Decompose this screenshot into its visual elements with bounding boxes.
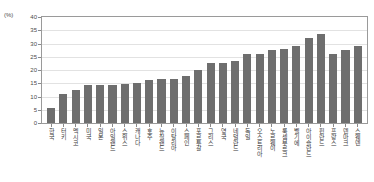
x-axis-label-slot: 한국 bbox=[45, 128, 57, 180]
bar-slot bbox=[57, 17, 69, 123]
bar-slot bbox=[217, 17, 229, 123]
x-axis-tick-mark bbox=[149, 124, 150, 127]
x-axis-category-label: 터키 bbox=[60, 128, 66, 140]
bar bbox=[96, 85, 104, 123]
x-axis-tick-mark bbox=[136, 124, 137, 127]
bar-slot bbox=[119, 17, 131, 123]
x-axis-tick-mark bbox=[51, 124, 52, 127]
x-axis-tick bbox=[278, 124, 290, 127]
bar-series bbox=[42, 17, 367, 123]
x-axis-category-label: 미국 bbox=[85, 128, 91, 140]
x-axis-tick-mark bbox=[345, 124, 346, 127]
x-axis-label-slot: 아이슬란드 bbox=[303, 128, 315, 180]
x-axis-label-slot: 포르투갈 bbox=[192, 128, 204, 180]
x-axis-label-slot: 캐나다 bbox=[131, 128, 143, 180]
bar bbox=[317, 34, 325, 123]
bar-slot bbox=[94, 17, 106, 123]
bar bbox=[59, 94, 67, 123]
x-axis-category-label: 뉴질랜드 bbox=[158, 128, 164, 151]
x-axis-tick bbox=[339, 124, 351, 127]
bar-slot bbox=[352, 17, 364, 123]
x-axis-label-slot: 미국 bbox=[82, 128, 94, 180]
x-axis-tick-mark bbox=[63, 124, 64, 127]
x-axis-category-label: 포르투갈 bbox=[195, 128, 201, 151]
y-axis-tick-label: 0 bbox=[34, 120, 37, 126]
bar bbox=[243, 54, 251, 123]
x-axis-tick bbox=[204, 124, 216, 127]
x-axis-label-slot: 핀란드 bbox=[315, 128, 327, 180]
y-axis-tick-label: 10 bbox=[30, 94, 37, 100]
x-axis-tick bbox=[57, 124, 69, 127]
bar bbox=[231, 61, 239, 123]
y-axis-tick-label: 20 bbox=[30, 67, 37, 73]
x-axis-tick bbox=[155, 124, 167, 127]
x-axis-category-label: 네덜란드 bbox=[232, 128, 238, 151]
x-axis-tick-mark bbox=[222, 124, 223, 127]
bar-slot bbox=[241, 17, 253, 123]
bar bbox=[194, 70, 202, 123]
x-axis-category-label: 룩셈부르크 bbox=[281, 128, 287, 157]
x-axis-tick-mark bbox=[173, 124, 174, 127]
bar-slot bbox=[204, 17, 216, 123]
x-axis-label-slot: 스웨덴 bbox=[352, 128, 364, 180]
x-axis-label-slot: 호주 bbox=[143, 128, 155, 180]
x-axis-category-label: 영국 bbox=[220, 128, 226, 140]
x-axis-tick-mark bbox=[259, 124, 260, 127]
x-axis-category-label: 덴마크 bbox=[342, 128, 348, 145]
x-axis-label-slot: 스페인 bbox=[180, 128, 192, 180]
bar-chart: (%) 0510152025303540 한국터키멕시코미국일본아일랜드스위스캐… bbox=[0, 0, 374, 182]
bar bbox=[121, 84, 129, 123]
x-axis-category-label: 오스트리아 bbox=[257, 128, 263, 157]
x-axis-category-label: 호주 bbox=[146, 128, 152, 140]
bar bbox=[268, 50, 276, 123]
x-axis-tick bbox=[315, 124, 327, 127]
bar bbox=[305, 38, 313, 123]
bar-slot bbox=[327, 17, 339, 123]
x-axis-tick-mark bbox=[333, 124, 334, 127]
y-axis-tick-label: 40 bbox=[30, 14, 37, 20]
x-axis-category-label: 그리스 bbox=[207, 128, 213, 145]
x-axis-tick-mark bbox=[198, 124, 199, 127]
x-axis-tick bbox=[180, 124, 192, 127]
bar-slot bbox=[278, 17, 290, 123]
x-axis-tick bbox=[327, 124, 339, 127]
bar-slot bbox=[168, 17, 180, 123]
x-axis-tick bbox=[131, 124, 143, 127]
x-axis-tick-mark bbox=[357, 124, 358, 127]
x-axis-category-label: 노르웨이 bbox=[269, 128, 275, 151]
x-axis-category-label: 벨기에 bbox=[293, 128, 299, 145]
x-axis-tick-mark bbox=[271, 124, 272, 127]
x-axis-tick-mark bbox=[124, 124, 125, 127]
x-axis-category-label: 프랑스 bbox=[330, 128, 336, 145]
x-axis-category-label: 독일 bbox=[244, 128, 250, 140]
x-axis-label-slot: 프랑스 bbox=[327, 128, 339, 180]
x-axis-tick-mark bbox=[320, 124, 321, 127]
bar bbox=[341, 50, 349, 123]
x-axis-tick-mark bbox=[247, 124, 248, 127]
x-axis-tick-mark bbox=[210, 124, 211, 127]
x-axis-label-slot: 멕시코 bbox=[70, 128, 82, 180]
x-axis-label-slot: 노르웨이 bbox=[266, 128, 278, 180]
bar-slot bbox=[70, 17, 82, 123]
bar bbox=[182, 76, 190, 123]
bar bbox=[133, 83, 141, 123]
bar bbox=[354, 46, 362, 123]
x-axis-label-slot: 아일랜드 bbox=[106, 128, 118, 180]
bar bbox=[256, 54, 264, 123]
x-axis-label-slot: 독일 bbox=[241, 128, 253, 180]
x-axis-tick bbox=[254, 124, 266, 127]
bar-slot bbox=[315, 17, 327, 123]
x-axis-tick-mark bbox=[284, 124, 285, 127]
bar bbox=[47, 108, 55, 123]
x-axis-label-slot: 일본 bbox=[94, 128, 106, 180]
x-axis-tick bbox=[192, 124, 204, 127]
x-axis-tick bbox=[119, 124, 131, 127]
y-axis-tick-label: 5 bbox=[34, 107, 37, 113]
bar-slot bbox=[131, 17, 143, 123]
bar-slot bbox=[339, 17, 351, 123]
bar bbox=[157, 79, 165, 123]
x-axis-label-slot: 터키 bbox=[57, 128, 69, 180]
x-axis-tick bbox=[70, 124, 82, 127]
x-axis-tick-mark bbox=[100, 124, 101, 127]
x-axis-category-label: 스위스 bbox=[122, 128, 128, 145]
